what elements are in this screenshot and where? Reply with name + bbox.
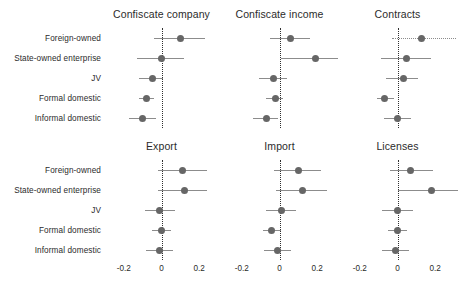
panel-title: Contracts bbox=[341, 8, 454, 20]
x-axis-tick-label: 0 bbox=[159, 264, 164, 273]
estimate-point bbox=[287, 35, 294, 42]
estimate-point bbox=[403, 55, 410, 62]
estimate-point bbox=[270, 75, 277, 82]
estimate-point bbox=[381, 95, 388, 102]
y-axis-labels: Foreign-ownedState-owned enterpriseJVFor… bbox=[0, 160, 101, 260]
estimate-point bbox=[299, 187, 306, 194]
estimate-point bbox=[394, 115, 401, 122]
x-axis: -0.200.2 bbox=[105, 264, 218, 280]
y-axis-label: Formal domestic bbox=[0, 94, 101, 103]
estimate-point bbox=[274, 247, 281, 254]
plot-area bbox=[341, 160, 454, 260]
y-axis-labels: Foreign-ownedState-owned enterpriseJVFor… bbox=[0, 28, 101, 128]
x-axis-tick-label: -0.2 bbox=[235, 264, 249, 273]
panel-title: Export bbox=[105, 140, 218, 152]
y-axis-label: Informal domestic bbox=[0, 114, 101, 123]
estimate-point bbox=[139, 115, 146, 122]
x-axis-tick-label: 0.2 bbox=[311, 264, 322, 273]
estimate-point bbox=[156, 247, 163, 254]
estimate-point bbox=[428, 187, 435, 194]
estimate-point bbox=[272, 95, 279, 102]
panel-export: Export bbox=[105, 140, 218, 260]
y-axis-label: Informal domestic bbox=[0, 246, 101, 255]
panel-confiscate-income: Confiscate income bbox=[223, 8, 336, 128]
estimate-point bbox=[143, 95, 150, 102]
estimate-point bbox=[268, 227, 275, 234]
y-axis-label: State-owned enterprise bbox=[0, 186, 101, 195]
panel-import: Import bbox=[223, 140, 336, 260]
plot-area bbox=[341, 28, 454, 128]
estimate-point bbox=[179, 167, 186, 174]
x-axis-tick-label: -0.2 bbox=[353, 264, 367, 273]
confidence-interval-bar bbox=[281, 58, 338, 59]
estimate-point bbox=[400, 75, 407, 82]
estimate-point bbox=[394, 207, 401, 214]
x-axis-tick-label: 0.2 bbox=[429, 264, 440, 273]
estimate-point bbox=[392, 247, 399, 254]
x-axis: -0.200.2 bbox=[223, 264, 336, 280]
estimate-point bbox=[177, 35, 184, 42]
estimate-point bbox=[295, 167, 302, 174]
plot-area bbox=[223, 160, 336, 260]
y-axis-label: JV bbox=[0, 206, 101, 215]
y-axis-label: Foreign-owned bbox=[0, 166, 101, 175]
estimate-point bbox=[278, 207, 285, 214]
estimate-point bbox=[181, 187, 188, 194]
estimate-point bbox=[149, 75, 156, 82]
estimate-point bbox=[418, 35, 425, 42]
panel-title: Confiscate income bbox=[223, 8, 336, 20]
panel-title: Confiscate company bbox=[105, 8, 218, 20]
y-axis-label: Foreign-owned bbox=[0, 34, 101, 43]
estimate-point bbox=[312, 55, 319, 62]
plot-area bbox=[105, 28, 218, 128]
panel-licenses: Licenses bbox=[341, 140, 454, 260]
estimate-point bbox=[158, 55, 165, 62]
x-axis-tick-label: -0.2 bbox=[117, 264, 131, 273]
x-axis: -0.200.2 bbox=[341, 264, 454, 280]
y-axis-label: State-owned enterprise bbox=[0, 54, 101, 63]
x-axis-tick-label: 0 bbox=[277, 264, 282, 273]
estimate-point bbox=[158, 227, 165, 234]
y-axis-label: JV bbox=[0, 74, 101, 83]
plot-area bbox=[223, 28, 336, 128]
x-axis-tick-label: 0 bbox=[395, 264, 400, 273]
plot-area bbox=[105, 160, 218, 260]
panel-contracts: Contracts bbox=[341, 8, 454, 128]
estimate-point bbox=[263, 115, 270, 122]
panel-confiscate-company: Confiscate company bbox=[105, 8, 218, 128]
estimate-point bbox=[407, 167, 414, 174]
y-axis-label: Formal domestic bbox=[0, 226, 101, 235]
panel-title: Licenses bbox=[341, 140, 454, 152]
estimate-point bbox=[394, 227, 401, 234]
panel-title: Import bbox=[223, 140, 336, 152]
estimate-point bbox=[156, 207, 163, 214]
x-axis-tick-label: 0.2 bbox=[193, 264, 204, 273]
